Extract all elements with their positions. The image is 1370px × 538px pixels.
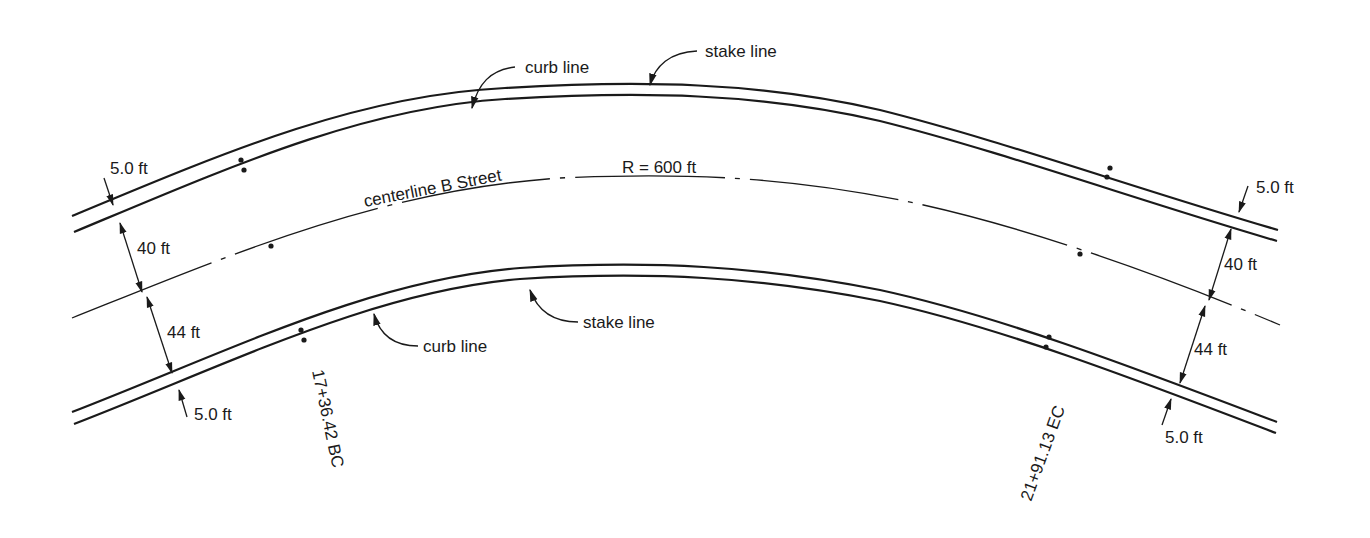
bottom-curb-line	[72, 265, 1277, 422]
right-bottom-width-label: 44 ft	[1194, 340, 1227, 359]
left-bottom-offset-label: 5.0 ft	[194, 405, 232, 424]
curb-line-bottom-label: curb line	[423, 337, 487, 356]
stake-line-bottom-leader	[530, 290, 578, 322]
ec-point-bottom-inner	[1046, 334, 1051, 339]
radius-label: R = 600 ft	[622, 158, 696, 177]
centerline-b-street	[72, 176, 1280, 325]
right-bottom-offset-label: 5.0 ft	[1165, 428, 1203, 447]
ec-station-label: 21+91.13 EC	[1017, 403, 1069, 503]
right-top-width-label: 40 ft	[1224, 255, 1257, 274]
ec-point-centerline	[1077, 251, 1082, 256]
curb-line-bottom-leader	[374, 314, 418, 346]
ec-point-top-outer	[1107, 165, 1112, 170]
stake-line-bottom-label: stake line	[583, 313, 655, 332]
left-bottom-offset-arrow	[179, 390, 187, 417]
right-top-offset-arrow	[1239, 186, 1248, 212]
bc-station-label: 17+36.42 BC	[308, 368, 347, 469]
top-stake-line	[72, 84, 1278, 230]
left-bottom-width-label: 44 ft	[167, 323, 200, 342]
bc-point-top-outer	[238, 157, 243, 162]
centerline-label: centerline B Street	[362, 166, 503, 211]
bc-point-top-inner	[241, 167, 246, 172]
bc-point-centerline	[268, 243, 273, 248]
right-bottom-offset-arrow	[1162, 399, 1171, 425]
curb-line-top-label: curb line	[525, 58, 589, 77]
ec-point-top-inner	[1104, 174, 1109, 179]
road-curve-diagram: curb line stake line stake line curb lin…	[0, 0, 1370, 538]
left-top-width-label: 40 ft	[137, 239, 170, 258]
bc-point-bottom-inner	[298, 327, 303, 332]
ec-point-bottom-outer	[1043, 344, 1048, 349]
right-top-offset-label: 5.0 ft	[1256, 178, 1294, 197]
stake-line-top-label: stake line	[705, 42, 777, 61]
stake-line-top-leader	[650, 51, 697, 85]
bc-point-bottom-outer	[301, 337, 306, 342]
left-top-offset-label: 5.0 ft	[110, 159, 148, 178]
